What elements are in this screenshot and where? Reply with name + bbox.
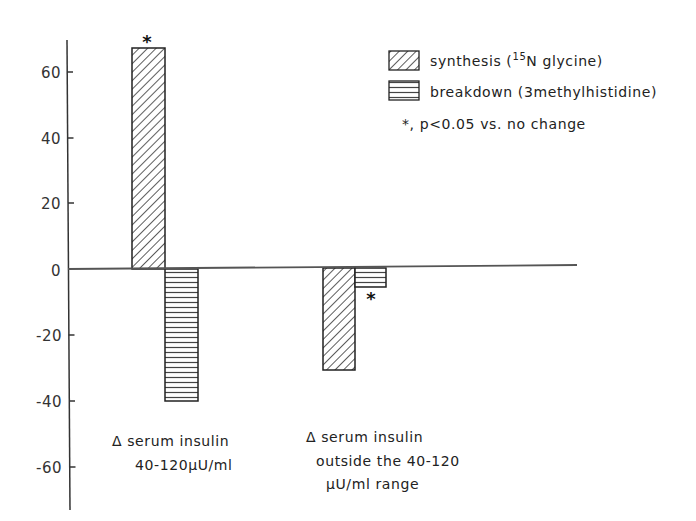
y-axis: 60 40 20 0 -20 -40 -60: [36, 40, 76, 510]
category2-line2: outside the 40-120: [316, 453, 460, 469]
category1-line1: Δ serum insulin: [112, 433, 229, 449]
bar-chart: 60 40 20 0 -20 -40 -60 * * synthesis (15…: [0, 0, 696, 521]
category2-line1: Δ serum insulin: [306, 429, 423, 445]
category2-line3: μU/ml range: [326, 476, 419, 492]
legend-swatch-synthesis: [389, 51, 419, 70]
significance-star-group1: *: [142, 31, 152, 52]
legend-label-synthesis: synthesis (15N glycine): [430, 51, 603, 69]
category-label-group2: Δ serum insulin outside the 40-120 μU/ml…: [306, 429, 460, 492]
bar-group2-synthesis: [323, 268, 355, 370]
bar-group1-breakdown: [165, 269, 198, 401]
bar-group2-breakdown: [355, 268, 386, 287]
significance-star-group2: *: [366, 288, 376, 309]
legend-label-breakdown: breakdown (3methylhistidine): [430, 84, 657, 100]
legend-significance-note: *, p<0.05 vs. no change: [402, 116, 586, 132]
y-tick-40: 40: [41, 130, 61, 148]
category-label-group1: Δ serum insulin 40-120μU/ml: [112, 433, 233, 473]
y-tick-neg20: -20: [36, 327, 62, 345]
y-tick-0: 0: [51, 262, 61, 280]
legend-swatch-breakdown: [389, 81, 419, 100]
y-tick-60: 60: [41, 64, 61, 82]
y-tick-neg60: -60: [36, 459, 62, 477]
category1-line2: 40-120μU/ml: [135, 457, 233, 473]
bar-group1-synthesis: [132, 48, 165, 269]
y-tick-neg40: -40: [36, 393, 62, 411]
y-tick-20: 20: [41, 195, 61, 213]
legend: synthesis (15N glycine) breakdown (3meth…: [389, 51, 657, 132]
